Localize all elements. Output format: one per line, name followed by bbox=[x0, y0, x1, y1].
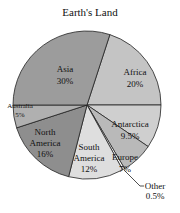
slice-label-north-america: 16% bbox=[37, 149, 54, 159]
slice-label-north-america: America bbox=[30, 138, 61, 148]
pie-chart: Africa20%Antarctica9.5%Europe7%SouthAmer… bbox=[0, 0, 180, 213]
slice-label-europe: 7% bbox=[119, 164, 132, 174]
slice-label-australia: 5% bbox=[15, 111, 25, 119]
slice-label-africa: 20% bbox=[127, 79, 144, 89]
slice-label-other: Other bbox=[145, 181, 166, 191]
slice-label-europe: Europe bbox=[112, 152, 138, 162]
slice-label-south-america: 12% bbox=[81, 164, 98, 174]
slice-label-north-america: North bbox=[35, 127, 56, 137]
slice-label-antarctica: Antarctica bbox=[111, 119, 148, 129]
slice-label-australia: Australia bbox=[7, 102, 34, 110]
slice-label-africa: Africa bbox=[124, 67, 147, 77]
slice-label-south-america: America bbox=[74, 153, 105, 163]
slice-label-asia: Asia bbox=[57, 64, 74, 74]
slice-label-antarctica: 9.5% bbox=[121, 131, 140, 141]
slice-label-asia: 30% bbox=[57, 76, 74, 86]
slice-label-other: 0.5% bbox=[146, 191, 165, 201]
slice-label-south-america: South bbox=[78, 142, 100, 152]
